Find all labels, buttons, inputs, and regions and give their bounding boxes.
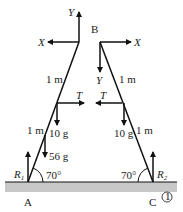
point-a-label: A bbox=[24, 196, 32, 208]
load-label: 56 g bbox=[49, 150, 69, 162]
weight-right-label: 10 g bbox=[114, 127, 134, 139]
circled-marker-text: 1 bbox=[165, 190, 171, 202]
right-ladder bbox=[100, 42, 153, 182]
left-x-label: X bbox=[37, 36, 46, 48]
angle-left-label: 70° bbox=[46, 169, 61, 181]
reaction-right-label: R2 bbox=[156, 168, 168, 182]
left-y-label: Y bbox=[68, 6, 76, 18]
ladder-free-body-diagram: Y X B X Y 1 m 1 m T T 10 g 10 g 1 m 1 m … bbox=[0, 0, 183, 212]
point-c-label: C bbox=[149, 196, 156, 208]
point-b-label: B bbox=[91, 23, 98, 35]
tension-right-label: T bbox=[100, 89, 107, 101]
angle-right-label: 70° bbox=[121, 169, 136, 181]
left-lower-length: 1 m bbox=[27, 124, 44, 136]
ground bbox=[5, 182, 177, 192]
tension-left-label: T bbox=[76, 89, 83, 101]
reaction-left-label: R1 bbox=[13, 168, 24, 182]
right-y-label: Y bbox=[96, 74, 104, 86]
angle-arc-left bbox=[33, 168, 43, 182]
right-lower-length: 1 m bbox=[136, 124, 153, 136]
weight-left-label: 10 g bbox=[49, 127, 69, 139]
right-upper-length: 1 m bbox=[119, 73, 136, 85]
left-upper-length: 1 m bbox=[46, 73, 63, 85]
angle-arc-right bbox=[138, 168, 148, 182]
right-x-label: X bbox=[133, 36, 142, 48]
